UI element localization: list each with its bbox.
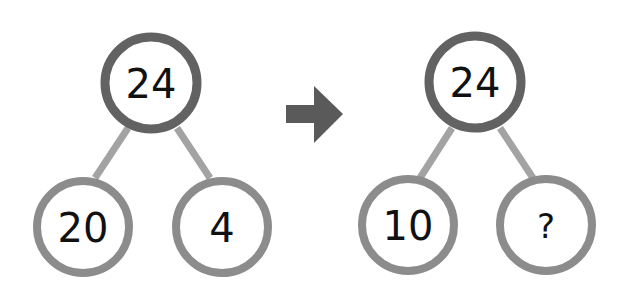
connector-right-whole-to-part2: [500, 128, 533, 178]
left-part2-value: 4: [209, 205, 234, 251]
connector-right-whole-to-part1: [420, 128, 452, 178]
right-number-bond: 24 10 ?: [362, 36, 592, 271]
left-whole-value: 24: [126, 61, 177, 107]
left-number-bond: 24 20 4: [37, 37, 268, 273]
right-part1-value: 10: [383, 203, 434, 249]
right-part2-unknown: ?: [537, 206, 555, 246]
right-whole-value: 24: [450, 60, 501, 106]
connector-left-whole-to-part1: [95, 128, 128, 178]
right-arrow-icon: [286, 86, 343, 143]
connector-left-whole-to-part2: [177, 128, 210, 178]
left-part1-value: 20: [58, 205, 109, 251]
number-bond-diagram: 24 20 4 24 10 ?: [0, 0, 625, 296]
